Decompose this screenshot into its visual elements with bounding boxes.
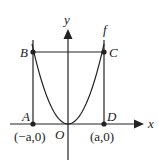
point-d-label: D	[106, 109, 117, 124]
function-label: f	[103, 22, 109, 37]
point-b-label: B	[20, 45, 28, 60]
x-axis-label: x	[147, 116, 154, 131]
coord-label-neg-a: (−a,0)	[14, 129, 46, 144]
coord-label-pos-a: (a,0)	[90, 129, 114, 144]
point-d	[101, 121, 106, 126]
point-a-label: A	[21, 109, 30, 124]
diagram-canvas: y x f B C A D O (−a,0) (a,0)	[0, 0, 158, 168]
point-c-label: C	[109, 45, 118, 60]
origin-label: O	[55, 127, 65, 142]
x-axis-arrow-icon	[134, 120, 144, 129]
point-c	[101, 49, 106, 54]
point-b	[30, 49, 35, 54]
y-axis-label: y	[62, 12, 70, 27]
point-a	[30, 121, 35, 126]
y-axis-arrow-icon	[64, 29, 73, 39]
